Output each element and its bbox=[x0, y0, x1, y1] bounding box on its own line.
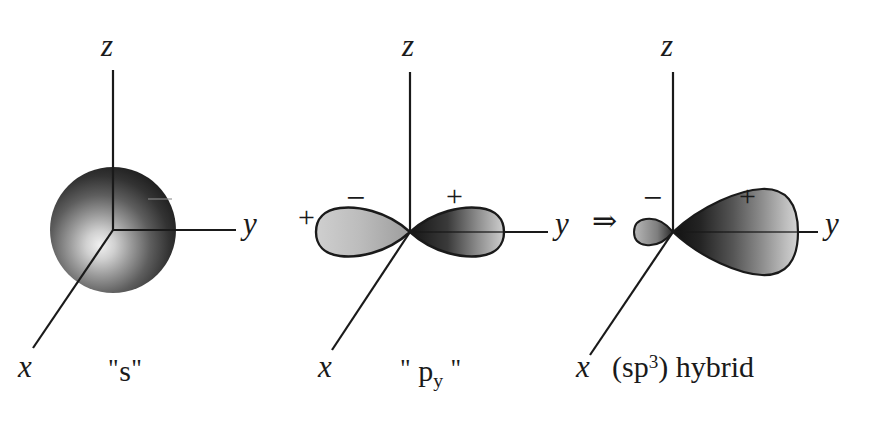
x-axis-label: x bbox=[576, 351, 590, 382]
panel-py-orbital: z y x + − + " py " bbox=[290, 0, 590, 443]
z-axis-label: z bbox=[402, 30, 414, 61]
caption-open-quote: " bbox=[108, 354, 119, 383]
panel-sp3-hybrid: z y x ⇒ − + (sp3) hybrid bbox=[590, 0, 877, 443]
caption-text: p bbox=[418, 354, 433, 387]
x-axis-line bbox=[590, 232, 673, 355]
caption-close-quote: " bbox=[451, 354, 462, 383]
orbital-figure: z y x "s" bbox=[0, 0, 877, 443]
caption-close: ) hybrid bbox=[658, 350, 754, 383]
py-plus-sign: + bbox=[446, 181, 463, 211]
py-minus-sign: − bbox=[346, 181, 365, 215]
caption-close-quote: " bbox=[131, 354, 142, 383]
double-arrow-icon: ⇒ bbox=[592, 206, 617, 236]
caption-open: (sp bbox=[612, 350, 649, 383]
caption-superscript: 3 bbox=[649, 351, 659, 372]
caption-text: s bbox=[119, 354, 131, 387]
y-axis-label: y bbox=[555, 208, 569, 239]
sp3-plus-sign: + bbox=[739, 181, 756, 211]
sp3-minus-sign: − bbox=[643, 181, 662, 215]
y-axis-label: y bbox=[825, 208, 839, 239]
caption-py-orbital: " py " bbox=[400, 356, 461, 390]
x-axis-label: x bbox=[318, 351, 332, 382]
panel-s-orbital: z y x "s" bbox=[0, 0, 290, 443]
caption-sp3-hybrid: (sp3) hybrid bbox=[612, 352, 754, 382]
caption-subscript: y bbox=[433, 369, 443, 391]
z-axis-label: z bbox=[661, 30, 673, 61]
caption-open-quote: " bbox=[400, 354, 411, 383]
z-axis-label: z bbox=[101, 30, 113, 61]
x-axis-label: x bbox=[18, 351, 32, 382]
y-axis-label: y bbox=[243, 208, 257, 239]
caption-s-orbital: "s" bbox=[108, 356, 142, 386]
py-outer-plus-sign: + bbox=[298, 202, 315, 232]
